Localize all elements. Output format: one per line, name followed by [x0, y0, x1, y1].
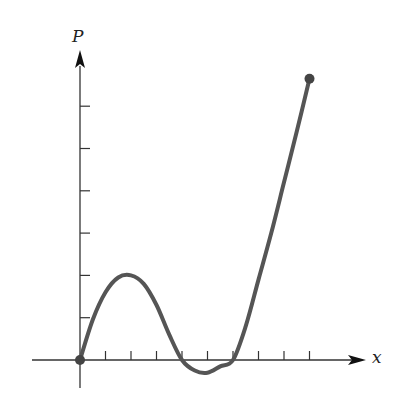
x-axis-label: x [372, 347, 382, 367]
plot-area [0, 0, 402, 395]
start-point-marker [75, 355, 85, 365]
chart-container: P x [0, 0, 402, 395]
y-axis-label: P [72, 26, 83, 46]
y-axis-arrow-icon [75, 50, 85, 68]
data-curve [80, 79, 310, 373]
end-point-marker [305, 74, 315, 84]
